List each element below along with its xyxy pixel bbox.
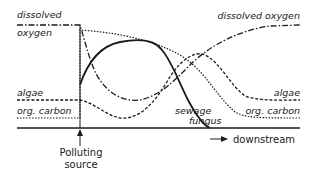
label-left-oxygen: oxygen xyxy=(17,27,52,38)
label-left-algae: algae xyxy=(17,87,43,98)
label-polluting: Polluting xyxy=(59,147,102,158)
dissolved-oxygen-curve xyxy=(17,25,300,100)
label-downstream: downstream xyxy=(233,134,295,145)
arrow-up-icon xyxy=(77,129,83,136)
river-pollution-diagram: dissolved oxygen algae org. carbon disso… xyxy=(0,0,314,174)
label-fungus: fungus xyxy=(189,115,221,126)
label-right-org-carbon: org. carbon xyxy=(245,105,300,116)
label-left-dissolved: dissolved xyxy=(17,9,62,20)
label-right-algae: algae xyxy=(274,87,300,98)
label-left-org-carbon: org. carbon xyxy=(17,105,72,116)
label-right-dissolved-oxygen: dissolved oxygen xyxy=(218,10,301,21)
label-source: source xyxy=(64,159,97,170)
arrow-right-icon xyxy=(221,136,228,142)
